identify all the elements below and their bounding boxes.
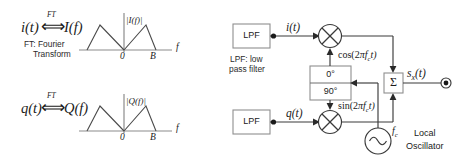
lpf-caption-line2: pass filter xyxy=(229,65,265,73)
lpf-top-label: LPF xyxy=(233,31,270,40)
q-spectrum-tick-b: B xyxy=(150,133,156,143)
local-oscillator xyxy=(365,128,391,154)
carrier-cos-arrowhead xyxy=(327,48,334,55)
phase-ninety-label: 90° xyxy=(310,87,351,96)
sum-input-bottom-arrowhead xyxy=(390,93,397,100)
output-terminal xyxy=(441,78,451,88)
oscillator-frequency-label: fc xyxy=(392,126,398,139)
i-freq-signal-label: I(f) xyxy=(64,20,83,35)
output-signal-label: sx(t) xyxy=(407,68,426,82)
carrier-sin-prefix: sin(2 xyxy=(338,100,358,111)
q-time-signal-label: q(t) xyxy=(21,101,42,116)
phase-zero-label: 0° xyxy=(310,70,351,79)
mixer-bottom xyxy=(319,111,342,134)
carrier-sin-label: sin(2πfct) xyxy=(338,101,375,114)
q-freq-signal-label: Q(f) xyxy=(64,101,88,116)
q-branch-node-dot xyxy=(271,119,276,124)
carrier-cos-label: cos(2πfct) xyxy=(338,50,377,63)
lpf-bottom-label: LPF xyxy=(233,117,270,126)
mixer-top xyxy=(319,25,342,48)
carrier-sin-arrowhead xyxy=(327,103,334,110)
q-spectrum-magnitude-label: |Q(f)| xyxy=(126,97,146,106)
output-signal-suffix: (t) xyxy=(415,67,426,79)
i-equivalence-icon: ⟺ xyxy=(41,18,65,35)
i-spectrum-axis-label: f xyxy=(176,43,179,53)
lpf-caption-line1: LPF: low xyxy=(230,55,263,63)
i-spectrum-magnitude-label: |I(f)| xyxy=(126,16,142,25)
q-spectrum-negative-lobe xyxy=(87,106,124,131)
i-spectrum-tick-zero: 0 xyxy=(120,52,125,62)
q-equivalence-icon: ⟺ xyxy=(41,99,65,116)
i-spectrum-positive-lobe xyxy=(124,25,156,50)
i-time-signal-label: i(t) xyxy=(21,20,39,35)
oscillator-name-line1: Local xyxy=(414,129,436,138)
oscillator-frequency-subscript: c xyxy=(395,131,398,138)
i-spectrum-negative-lobe xyxy=(87,25,124,50)
output-terminal-dot xyxy=(444,81,449,86)
carrier-cos-suffix: t) xyxy=(371,49,377,60)
q-spectrum-positive-lobe xyxy=(124,106,156,131)
carrier-cos-prefix: cos(2 xyxy=(338,49,360,60)
q-branch-label: q(t) xyxy=(286,108,303,120)
q-spectrum-tick-zero: 0 xyxy=(120,133,125,143)
i-branch-node-dot xyxy=(271,33,276,38)
carrier-sin-suffix: t) xyxy=(369,100,375,111)
i-branch-label: i(t) xyxy=(286,22,300,34)
q-spectrum-axis-label: f xyxy=(176,124,179,134)
ft-caption-line1: FT: Fourier xyxy=(24,40,64,48)
summer-label: Σ xyxy=(384,76,403,88)
oscillator-name-line2: Oscillator xyxy=(406,142,444,151)
figure-canvas: i(t) FT ⟺ I(f) FT: Fourier Transform |I(… xyxy=(0,0,458,165)
i-spectrum-tick-b: B xyxy=(150,52,156,62)
ft-caption-line2: Transform xyxy=(33,50,71,58)
sum-input-top-arrowhead xyxy=(390,66,397,73)
